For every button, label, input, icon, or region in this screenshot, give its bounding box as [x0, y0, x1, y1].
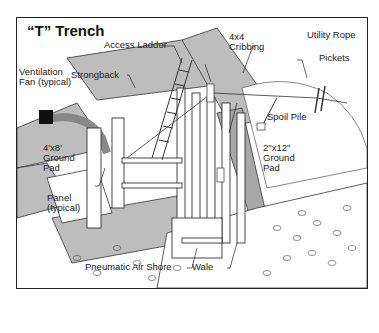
diagram-frame: “T” Trench Access Ladder 4x4 Cribbing Ut…	[16, 17, 368, 289]
label-pickets: Pickets	[319, 53, 350, 63]
label-4x4-cribbing: 4x4 Cribbing	[229, 32, 264, 52]
label-pneumatic-air-shore: Pneumatic Air Shore	[85, 262, 172, 272]
label-4x8-ground-pad: 4'x8' Ground Pad	[43, 143, 75, 173]
label-2x12-ground-pad: 2"x12" Ground Pad	[263, 143, 295, 173]
diagram-title: “T” Trench	[27, 22, 105, 39]
label-access-ladder: Access Ladder	[104, 40, 167, 50]
label-spoil-pile: Spoil Pile	[267, 112, 307, 122]
label-panel: Panel (typical)	[47, 193, 80, 213]
cribbing-shape	[207, 84, 214, 102]
label-utility-rope: Utility Rope	[307, 30, 356, 40]
label-wale: Wale	[192, 262, 213, 272]
label-strongback: Strongback	[71, 70, 119, 80]
vent-fan-shape	[39, 110, 53, 124]
label-ventilation-fan: Ventilation Fan (typical)	[19, 67, 71, 87]
